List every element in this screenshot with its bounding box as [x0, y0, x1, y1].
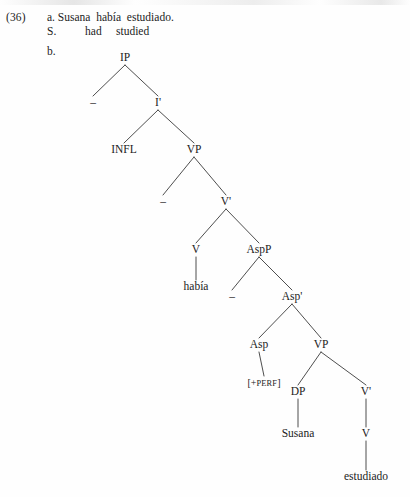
- tree-node-trace2: –: [160, 196, 166, 208]
- tree-branch: [259, 352, 264, 376]
- tree-node-habia: había: [184, 281, 209, 293]
- tree-node-estudiado: estudiado: [344, 471, 388, 483]
- tree-branch: [321, 352, 366, 385]
- tree-node-perf: [+PERF]: [247, 378, 280, 388]
- tree-node-vp2: VP: [314, 339, 329, 351]
- tree-node-trace1: –: [90, 97, 96, 109]
- tree-node-aspp: AspP: [247, 244, 272, 256]
- tree-node-asp: Asp: [250, 339, 269, 351]
- tree-branch: [194, 157, 226, 195]
- tree-node-vbar1: V': [221, 196, 231, 208]
- tree-node-v2: V: [362, 428, 370, 440]
- tree-branch: [196, 209, 226, 243]
- tree-node-ip: IP: [120, 52, 130, 64]
- tree-node-vp1: VP: [187, 144, 202, 156]
- tree-node-aspbar: Asp': [282, 291, 303, 303]
- tree-branch: [93, 65, 125, 96]
- tree-branch: [163, 157, 194, 195]
- tree-branch: [226, 209, 259, 243]
- tree-branch: [259, 304, 292, 338]
- tree-branch: [298, 352, 321, 385]
- tree-node-v1: V: [192, 244, 200, 256]
- tree-node-ibar: I': [155, 97, 161, 109]
- tree-branch: [232, 257, 259, 290]
- tree-branch: [259, 257, 292, 290]
- tree-node-vbar2: V': [361, 386, 371, 398]
- tree-branch: [158, 110, 194, 143]
- tree-node-dp: DP: [291, 386, 306, 398]
- example-page: (36) a. Susana había estudiado. S. had s…: [0, 0, 410, 497]
- tree-node-trace3: –: [229, 291, 235, 303]
- tree-branch: [124, 110, 158, 143]
- tree-branch: [292, 304, 321, 338]
- tree-node-susana: Susana: [282, 428, 315, 440]
- tree-branch: [125, 65, 158, 96]
- syntax-tree-diagram: IP–I'INFLVP–V'VAspPhabía–Asp'AspVP[+PERF…: [0, 0, 410, 497]
- tree-node-infl: INFL: [111, 144, 137, 156]
- tree-branch-lines: [0, 0, 410, 497]
